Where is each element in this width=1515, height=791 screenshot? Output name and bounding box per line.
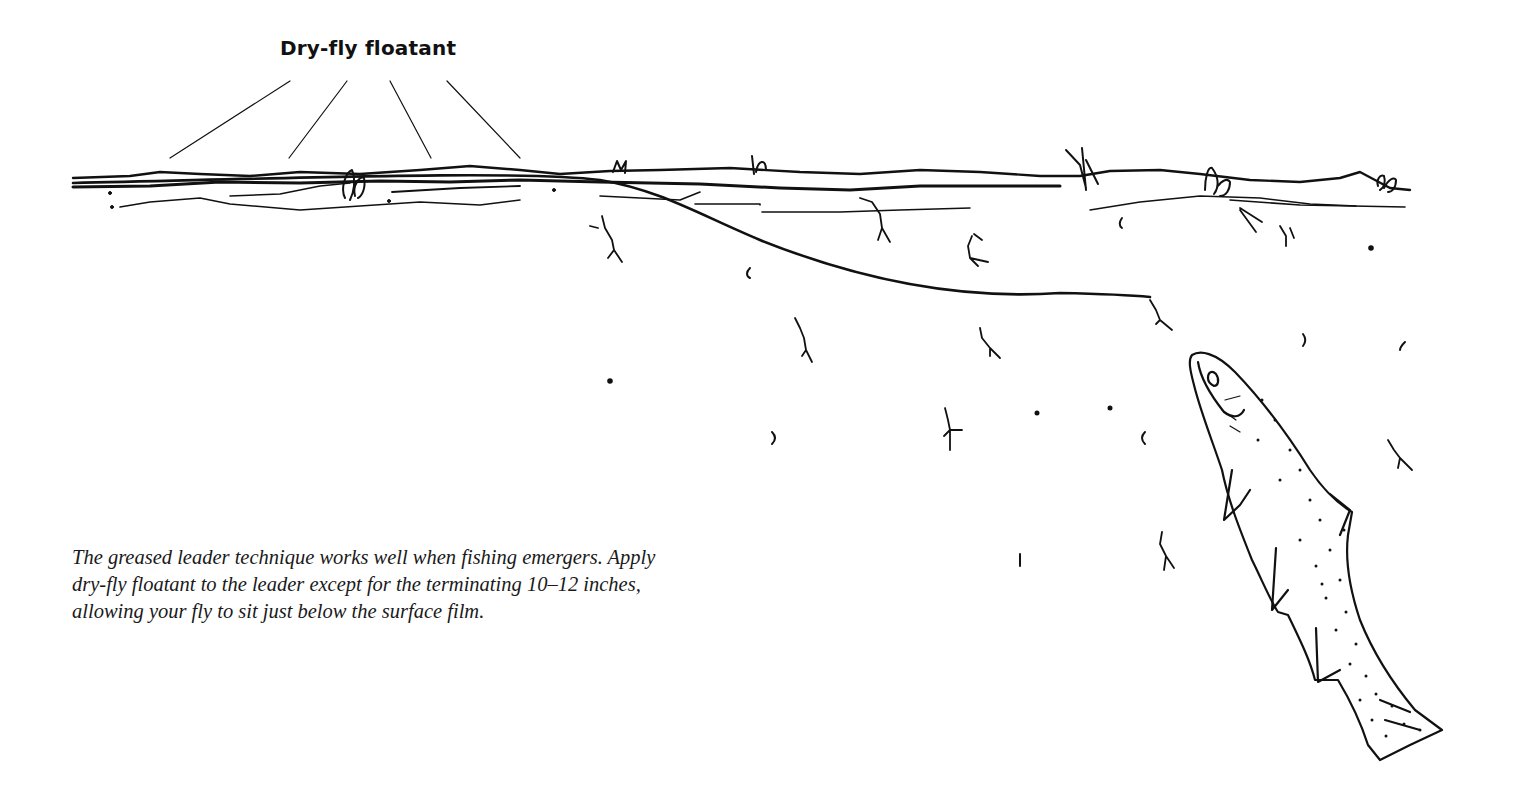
caption-line: dry-fly floatant to the leader except fo… [72,571,852,598]
emerging-nymphs [590,198,1412,570]
label-pointer-lines [170,81,520,158]
greased-leader [73,175,1150,297]
rising-trout [1190,353,1442,760]
caption-line: The greased leader technique works well … [72,544,852,571]
illustration [0,0,1515,791]
water-surface [73,166,1410,212]
water-particles [608,218,1405,566]
figure-caption: The greased leader technique works well … [72,544,852,625]
caption-line: allowing your fly to sit just below the … [72,598,852,625]
